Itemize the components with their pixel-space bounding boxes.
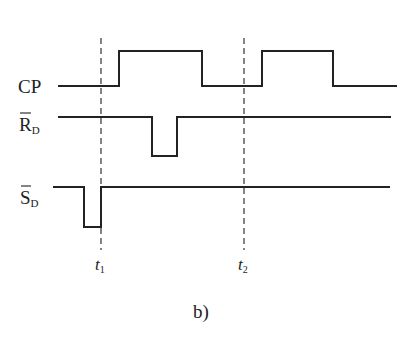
sd-label: SD xyxy=(20,187,39,209)
cp-label: CP xyxy=(18,76,41,97)
cp-waveform xyxy=(58,51,397,86)
timing-diagram: CP RD SD t1 t2 b) xyxy=(0,0,411,341)
figure-caption: b) xyxy=(193,301,209,323)
rd-label: RD xyxy=(19,114,40,136)
t1-label: t1 xyxy=(95,255,105,275)
t2-label: t2 xyxy=(238,255,248,275)
sd-waveform xyxy=(53,187,390,227)
rd-waveform xyxy=(58,117,391,156)
